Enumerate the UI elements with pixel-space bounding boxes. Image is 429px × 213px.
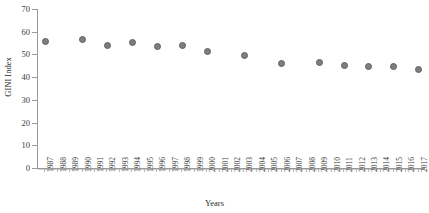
x-axis-tick-label: 2011: [346, 157, 354, 172]
x-axis-tick-label: 2010: [334, 157, 342, 172]
data-point: [179, 42, 186, 49]
y-axis-tick-label: 40: [6, 73, 30, 81]
clipped-header-remnant: · · · ·: [0, 0, 429, 6]
x-axis-tick-label: 1988: [60, 157, 68, 172]
x-axis-tick-label: 2004: [259, 157, 267, 172]
x-axis-tick: [82, 169, 83, 172]
x-axis-tick-label: 2017: [421, 157, 429, 172]
x-axis-tick: [256, 169, 257, 172]
data-point: [204, 48, 211, 55]
x-axis-tick: [194, 169, 195, 172]
x-axis-tick: [418, 169, 419, 172]
data-point: [278, 60, 285, 67]
x-axis-tick-label: 1992: [109, 157, 117, 172]
x-axis-tick-label: 2006: [284, 157, 292, 172]
x-axis-tick-label: 1993: [122, 157, 130, 172]
x-axis-tick-label: 2008: [309, 157, 317, 172]
x-axis-tick: [393, 169, 394, 172]
x-axis-tick: [306, 169, 307, 172]
x-axis-tick-label: 1997: [172, 157, 180, 172]
x-axis-tick-label: 2012: [359, 157, 367, 172]
data-point: [241, 52, 248, 59]
x-axis-title: Years: [0, 198, 429, 208]
x-axis-tick: [281, 169, 282, 172]
x-axis-tick-label: 1994: [134, 157, 142, 172]
data-point: [42, 38, 49, 45]
chart-figure: · · · · GINI Index 010203040506070 19871…: [0, 0, 429, 213]
x-axis-tick-label: 2009: [321, 157, 329, 172]
x-axis-tick-label: 2002: [234, 157, 242, 172]
x-axis-tick-label: 2014: [383, 157, 391, 172]
data-point: [316, 59, 323, 66]
x-axis-tick-label: 1991: [97, 157, 105, 172]
x-axis-tick: [94, 169, 95, 172]
data-point: [341, 62, 348, 69]
y-axis-tick-label: 20: [6, 119, 30, 127]
x-axis-tick-label: 2000: [209, 157, 217, 172]
x-axis-tick: [331, 169, 332, 172]
x-axis-tick-label: 2001: [222, 157, 230, 172]
x-axis-tick: [356, 169, 357, 172]
x-axis-tick-label: 2003: [246, 157, 254, 172]
x-axis-tick: [57, 169, 58, 172]
x-axis-tick: [219, 169, 220, 172]
data-point: [79, 36, 86, 43]
x-axis-tick: [119, 169, 120, 172]
x-axis-tick-label: 1999: [197, 157, 205, 172]
x-axis-tick-label: 1995: [147, 157, 155, 172]
x-axis-tick-label: 2007: [296, 157, 304, 172]
data-point: [390, 63, 397, 70]
plot-area: [38, 9, 424, 168]
data-point: [415, 66, 422, 73]
x-axis-tick-label: 2013: [371, 157, 379, 172]
x-axis-tick: [343, 169, 344, 172]
x-axis-tick-label: 2015: [396, 157, 404, 172]
x-axis-tick: [144, 169, 145, 172]
x-axis-tick: [169, 169, 170, 172]
x-axis-tick: [206, 169, 207, 172]
x-axis-tick: [231, 169, 232, 172]
y-axis-tick-label: 70: [6, 5, 30, 13]
x-axis-tick: [69, 169, 70, 172]
x-axis-tick-label: 1989: [72, 157, 80, 172]
x-axis-tick-label: 1996: [159, 157, 167, 172]
y-axis-tick-label: 0: [6, 164, 30, 172]
x-axis-tick: [318, 169, 319, 172]
data-point: [365, 63, 372, 70]
x-axis-tick: [368, 169, 369, 172]
y-axis-tick-label: 30: [6, 96, 30, 104]
x-axis-tick-label: 2016: [408, 157, 416, 172]
x-axis-tick-label: 1987: [47, 157, 55, 172]
x-axis-tick-label: 2005: [271, 157, 279, 172]
data-point: [129, 39, 136, 46]
y-axis-tick-label: 60: [6, 28, 30, 36]
y-axis-tick-label: 50: [6, 50, 30, 58]
y-axis-tick-label: 10: [6, 141, 30, 149]
x-axis-tick-label: 1998: [184, 157, 192, 172]
data-point: [104, 42, 111, 49]
data-point: [154, 43, 161, 50]
x-axis-tick-label: 1990: [85, 157, 93, 172]
